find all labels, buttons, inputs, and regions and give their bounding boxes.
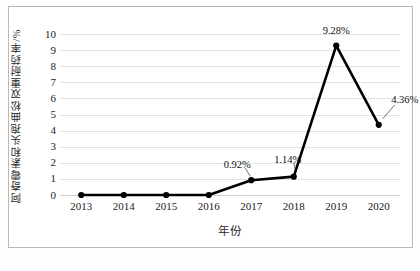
series-polyline [81,46,379,195]
y-tick-4: 4 [32,125,56,136]
x-tick-2019: 2019 [325,201,347,212]
x-tick-2016: 2016 [198,201,220,212]
chart-figure: 阿奇霉素和头孢曲松双重耐药率/% 109876543210 0.92%1.14%… [0,0,420,271]
point-label-2020: 4.36% [391,95,418,106]
x-tick-2014: 2014 [113,201,135,212]
plot-area: 0.92%1.14%9.28%4.36% [60,34,400,195]
series-line [60,34,400,195]
y-tick-3: 3 [32,141,56,152]
x-tick-2020: 2020 [368,201,390,212]
y-axis-title: 阿奇霉素和头孢曲松双重耐药率/% [8,8,26,223]
data-point-2015[interactable] [163,192,169,198]
x-tick-2017: 2017 [240,201,262,212]
point-label-2017: 0.92% [224,160,251,171]
x-axis-title: 年份 [60,222,400,238]
y-tick-5: 5 [32,109,56,120]
y-tick-1: 1 [32,173,56,184]
data-point-2016[interactable] [206,192,212,198]
data-point-2018[interactable] [291,174,297,180]
y-tick-9: 9 [32,45,56,56]
x-tick-2013: 2013 [70,201,92,212]
point-label-2019: 9.28% [323,26,350,37]
y-tick-7: 7 [32,77,56,88]
data-point-2017[interactable] [248,177,254,183]
data-point-2014[interactable] [121,192,127,198]
y-tick-6: 6 [32,93,56,104]
y-axis-title-text: 阿奇霉素和头孢曲松双重耐药率/% [12,29,23,203]
y-tick-8: 8 [32,61,56,72]
data-point-2020[interactable] [376,122,382,128]
point-label-2018: 1.14% [274,155,301,166]
leader-line-2020 [383,105,395,119]
y-axis-tick-labels: 109876543210 [30,34,56,195]
y-tick-10: 10 [32,29,56,40]
x-tick-2015: 2015 [155,201,177,212]
x-tick-2018: 2018 [283,201,305,212]
y-tick-0: 0 [32,190,56,201]
y-tick-2: 2 [32,157,56,168]
data-point-2013[interactable] [78,192,84,198]
x-axis-tick-labels: 20132014201520162017201820192020 [60,201,400,219]
data-point-2019[interactable] [333,42,339,48]
